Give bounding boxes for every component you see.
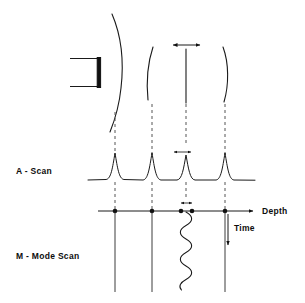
anatomy-panel xyxy=(70,14,228,132)
m-mode-scan-label: M - Mode Scan xyxy=(16,251,79,261)
a-scan-trace xyxy=(88,153,255,180)
interface-arc-4 xyxy=(223,47,228,102)
m-mode-trace-3-sinusoid xyxy=(180,212,192,290)
m-mode-panel xyxy=(98,203,253,292)
transducer xyxy=(70,58,101,88)
depth-marker-3a xyxy=(179,209,184,214)
transducer-face xyxy=(97,58,100,88)
diagram-canvas: A - Scan M - Mode Scan Depth Time xyxy=(0,0,305,303)
depth-axis-label: Depth xyxy=(262,206,288,216)
a-scan-label: A - Scan xyxy=(16,166,52,176)
interface-arc-1 xyxy=(110,14,122,132)
dashed-connectors xyxy=(115,104,225,210)
a-scan-panel xyxy=(88,152,255,180)
depth-marker-3b xyxy=(190,209,195,214)
ultrasound-ascan-mmode-figure: A - Scan M - Mode Scan Depth Time xyxy=(0,0,305,303)
time-axis-label: Time xyxy=(234,223,255,233)
interface-arc-2 xyxy=(147,47,153,100)
